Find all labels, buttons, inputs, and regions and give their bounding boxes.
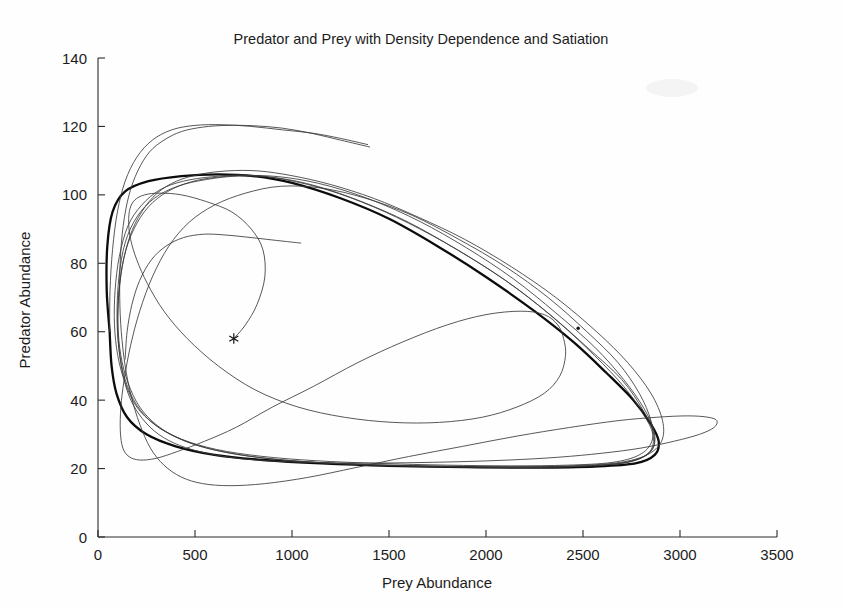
axes-group: 020406080100120140 050010001500200025003… — [62, 50, 794, 564]
scan-noise-artifact — [646, 79, 698, 97]
x-tick-label-group: 0500100015002000250030003500 — [94, 546, 794, 563]
x-tick-label: 2000 — [469, 546, 502, 563]
trajectory-transient-lower — [125, 234, 301, 359]
y-tick-label-group: 020406080100120140 — [62, 50, 87, 546]
y-tick-label: 0 — [79, 529, 87, 546]
x-tick-label: 0 — [94, 546, 102, 563]
phase-plot-svg: Predator and Prey with Density Dependenc… — [0, 0, 842, 608]
y-tick-label: 120 — [62, 118, 87, 135]
y-axis-title: Predator Abundance — [16, 232, 33, 369]
y-tick-label: 100 — [62, 186, 87, 203]
x-tick-label: 3000 — [663, 546, 696, 563]
chart-title: Predator and Prey with Density Dependenc… — [234, 31, 609, 47]
y-tick-group — [98, 58, 105, 537]
x-tick-label: 3500 — [760, 546, 793, 563]
x-tick-label: 2500 — [566, 546, 599, 563]
marker-trajectory-point — [576, 327, 579, 330]
trajectory-inner-spiral — [114, 175, 654, 467]
y-tick-label: 40 — [70, 392, 87, 409]
y-tick-label: 60 — [70, 323, 87, 340]
x-tick-group — [98, 530, 777, 537]
x-tick-label: 500 — [182, 546, 207, 563]
y-tick-label: 20 — [70, 460, 87, 477]
y-tick-label: 140 — [62, 50, 87, 67]
x-axis-title: Prey Abundance — [382, 574, 492, 591]
trajectory-limit-cycle — [106, 174, 658, 467]
x-tick-label: 1000 — [275, 546, 308, 563]
trajectory-transient-upper — [110, 125, 368, 332]
trajectory-series-group — [106, 125, 717, 486]
figure-container: Predator and Prey with Density Dependenc… — [0, 0, 842, 608]
y-tick-label: 80 — [70, 255, 87, 272]
x-tick-label: 1500 — [372, 546, 405, 563]
